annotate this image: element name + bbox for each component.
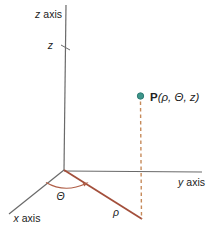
dashed-projection-line bbox=[141, 102, 142, 220]
diagram-canvas: zaxis z yaxis xaxis Θ ρ P(ρ, Θ, z) bbox=[0, 0, 214, 231]
rho-line bbox=[64, 170, 142, 219]
z-tick-label: z bbox=[47, 39, 54, 51]
rho-label: ρ bbox=[112, 206, 119, 218]
y-axis-line bbox=[64, 171, 202, 172]
point-p-label: P(ρ, Θ, z) bbox=[150, 91, 200, 103]
cylindrical-coordinates-diagram: zaxis z yaxis xaxis Θ ρ P(ρ, Θ, z) bbox=[0, 0, 214, 231]
theta-label: Θ bbox=[56, 190, 64, 202]
y-axis-label: yaxis bbox=[177, 176, 205, 188]
theta-angle-arc bbox=[46, 183, 86, 189]
z-axis-line bbox=[64, 5, 66, 170]
x-axis-label: xaxis bbox=[13, 212, 41, 224]
z-axis-label: zaxis bbox=[34, 8, 62, 20]
point-p-dot bbox=[137, 93, 143, 99]
